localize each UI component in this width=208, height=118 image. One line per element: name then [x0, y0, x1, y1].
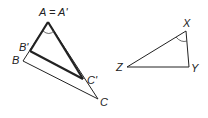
label-x: X [182, 17, 191, 29]
label-a: A = A' [38, 6, 68, 18]
label-z: Z [115, 61, 124, 73]
label-c-prime: C' [87, 74, 98, 86]
label-y: Y [191, 62, 199, 74]
similar-triangles-diagram: A = A' B' B C' C X Z Y [0, 0, 208, 118]
triangle-abc [23, 22, 98, 99]
triangle-a-prime-b-prime-c-prime [30, 22, 83, 79]
label-b: B [12, 54, 19, 66]
triangle-xyz [127, 31, 189, 67]
label-c: C [100, 96, 108, 108]
side-xy [186, 31, 189, 67]
side-xz [127, 31, 186, 67]
angle-arc-a [43, 31, 54, 34]
side-a-prime-b-prime [30, 22, 48, 51]
angle-arc-x [176, 37, 187, 42]
label-b-prime: B' [19, 41, 29, 53]
